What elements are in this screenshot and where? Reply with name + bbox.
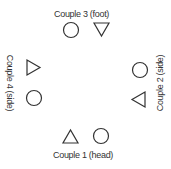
- couple-2-label: Couple 2 (side): [155, 51, 165, 115]
- square-dance-diagram: Couple 3 (foot) Couple 1 (head) Couple 4…: [0, 0, 171, 169]
- couple-4-label: Couple 4 (side): [5, 51, 15, 115]
- couple-3-triangle-down-icon: [94, 23, 109, 36]
- couple-4-circle-icon: [27, 91, 42, 106]
- couple-1-circle-icon: [94, 129, 109, 144]
- couple-2-circle-icon: [133, 63, 148, 78]
- couple-1-triangle-up-icon: [63, 130, 78, 143]
- couple-3-circle-icon: [64, 23, 79, 38]
- dancer-shapes: [0, 0, 171, 169]
- couple-1-label: Couple 1 (head): [53, 150, 113, 160]
- couple-4-triangle-right-icon: [27, 60, 40, 75]
- couple-2-triangle-left-icon: [132, 92, 145, 107]
- couple-3-label: Couple 3 (foot): [54, 9, 109, 19]
